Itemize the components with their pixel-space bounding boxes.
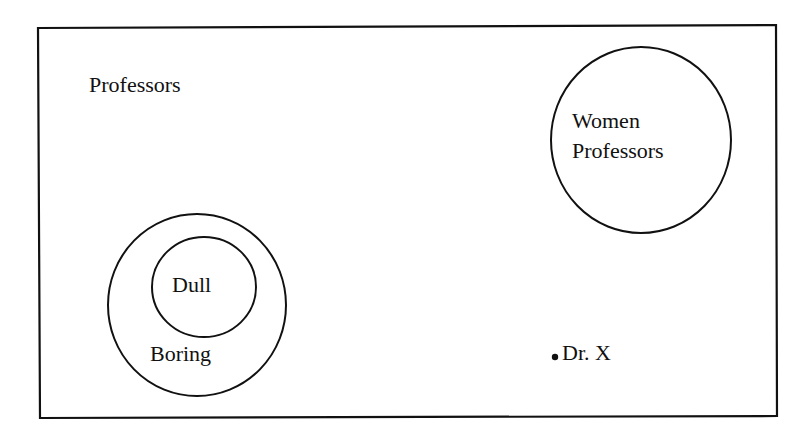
professors-label: Professors	[89, 72, 181, 98]
dr-x-label: Dr. X	[562, 340, 611, 366]
boring-label: Boring	[150, 341, 211, 367]
women-professors-label: Professors	[572, 138, 664, 164]
boring-circle	[108, 214, 286, 396]
diagram-shapes	[0, 0, 802, 442]
dull-label: Dull	[172, 272, 211, 298]
women-label: Women	[572, 108, 640, 134]
dr-x-point-icon	[552, 354, 558, 360]
euler-diagram: Professors Women Professors Boring Dull …	[0, 0, 802, 442]
